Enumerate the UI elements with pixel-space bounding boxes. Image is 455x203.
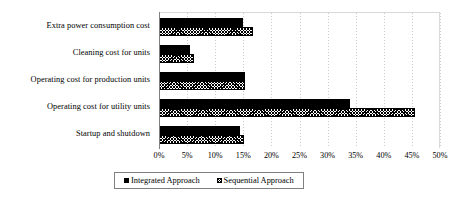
bar-group [159,16,439,37]
bar-integrated [159,126,240,135]
category-label: Cleaning cost for units [0,48,155,58]
category-axis: Extra power consumption cost Cleaning co… [0,12,155,148]
bar-group [159,70,439,91]
bar-group [159,43,439,64]
value-tick-label: 0% [154,150,165,161]
bar-sequential [159,81,245,90]
bar-integrated [159,18,243,27]
value-tick-label: 10% [208,150,223,161]
bar-integrated [159,45,190,54]
bar-series-container [159,13,439,148]
gridline [440,13,441,148]
bar-integrated [159,72,245,81]
bar-sequential [159,27,253,36]
bar-group [159,124,439,145]
solid-square-marker-icon [124,178,129,183]
category-label: Operating cost for production units [0,75,155,85]
value-tick-label: 30% [320,150,335,161]
value-tick-label: 50% [432,150,447,161]
bar-chart: Extra power consumption cost Cleaning co… [0,0,455,203]
bar-sequential [159,54,194,63]
value-tick-label: 40% [376,150,391,161]
legend-label: Sequential Approach [224,175,294,186]
value-tick-label: 35% [348,150,363,161]
value-tick-label: 45% [404,150,419,161]
value-tick-label: 5% [182,150,193,161]
value-tick-label: 25% [292,150,307,161]
bar-sequential [159,135,244,144]
category-label: Extra power consumption cost [0,21,155,31]
value-axis-line [159,12,160,149]
bar-sequential [159,108,415,117]
legend-item-sequential: Sequential Approach [217,175,294,186]
category-label: Startup and shutdown [0,129,155,139]
chart-legend: Integrated Approach Sequential Approach [114,172,304,189]
category-label: Operating cost for utility units [0,102,155,112]
value-tick-label: 20% [264,150,279,161]
value-tick-label: 15% [236,150,251,161]
value-axis: 0%5%10%15%20%25%30%35%40%45%50% [159,150,440,162]
legend-label: Integrated Approach [131,175,200,186]
bar-group [159,97,439,118]
legend-item-integrated: Integrated Approach [124,175,200,186]
plot-area [159,12,440,148]
bar-integrated [159,99,350,108]
hatched-square-marker-icon [217,178,222,183]
